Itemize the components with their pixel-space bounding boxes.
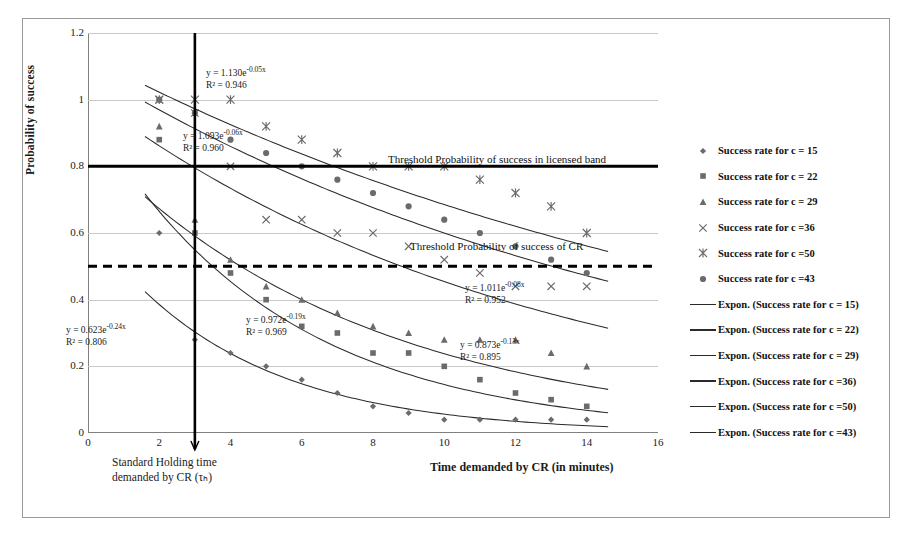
marker-star (298, 135, 306, 144)
marker-star (476, 175, 484, 184)
legend-item-label: Expon. (Success rate for c =43) (718, 427, 856, 438)
legend-symbol (696, 195, 710, 209)
x-tick-label: 8 (358, 436, 388, 448)
legend-item[interactable]: Expon. (Success rate for c =50) (688, 394, 898, 420)
marker-triangle (548, 350, 555, 357)
marker-diamond (584, 417, 590, 423)
marker-star (227, 95, 235, 104)
marker-cross (262, 216, 269, 223)
trend-line-2 (145, 197, 608, 390)
marker-triangle (370, 323, 377, 330)
equation-c43: y = 1.093e-0.06x R² = 0.960 (183, 127, 243, 154)
legend-item[interactable]: Success rate for c =43 (688, 266, 898, 292)
equation-c22-exponent: -0.19x (286, 312, 305, 321)
legend-line-icon (690, 329, 716, 330)
marker-square (228, 270, 234, 276)
legend-item[interactable]: Success rate for c = 29 (688, 189, 898, 215)
legend-item-label: Expon. (Success rate for c = 29) (718, 350, 859, 361)
marker-circle (370, 190, 376, 196)
series-1 (145, 137, 608, 413)
y-tick-label: 0.2 (44, 359, 84, 371)
holding-note-line1: Standard Holding time (112, 456, 217, 468)
legend-item[interactable]: Expon. (Success rate for c = 29) (688, 343, 898, 369)
marker-cross (699, 224, 706, 231)
legend-item-label: Success rate for c =36 (718, 222, 815, 233)
x-tick-label: 12 (501, 436, 531, 448)
legend-item[interactable]: Expon. (Success rate for c =43) (688, 420, 898, 446)
marker-star (512, 189, 520, 198)
equation-c15-r2: R² = 0.806 (66, 336, 126, 348)
marker-square (406, 350, 412, 356)
legend-item-label: Success rate for c =50 (718, 248, 815, 259)
legend-marker-line-icon (688, 355, 718, 356)
marker-diamond (370, 403, 376, 409)
marker-square (370, 350, 376, 356)
equation-c36-exponent: -0.08x (505, 280, 524, 289)
marker-cross (369, 229, 376, 236)
legend-marker-square-icon (688, 169, 718, 183)
marker-star (262, 122, 270, 131)
equation-c43-expr: y = 1.093e (183, 131, 223, 141)
y-tick-label: 1 (44, 93, 84, 105)
x-tick-label: 4 (216, 436, 246, 448)
trend-line-0 (145, 292, 608, 427)
marker-square (584, 404, 590, 410)
marker-cross (547, 283, 554, 290)
legend-item[interactable]: Success rate for c =50 (688, 240, 898, 266)
equation-c36-expr: y = 1.011e (465, 283, 505, 293)
legend-item-label: Expon. (Success rate for c = 22) (718, 324, 859, 335)
legend-line-icon (690, 355, 716, 356)
legend-line-icon (690, 380, 716, 381)
legend: Success rate for c = 15Success rate for … (688, 138, 898, 445)
legend-marker-star-icon (688, 246, 718, 260)
marker-star (333, 149, 341, 158)
marker-diamond (263, 363, 269, 369)
marker-square (548, 397, 554, 403)
figure-root: 1.210.80.60.40.20 Probability of success… (0, 0, 914, 545)
legend-item[interactable]: Expon. (Success rate for c =36) (688, 368, 898, 394)
marker-square (477, 377, 483, 383)
marker-circle (700, 276, 706, 282)
y-axis-ticks: 1.210.80.60.40.20 (40, 33, 84, 433)
legend-marker-diamond-icon (688, 144, 718, 158)
equation-c15-exponent: -0.24x (106, 322, 125, 331)
marker-star (583, 229, 591, 238)
holding-note-line2: demanded by CR (τₕ) (112, 471, 212, 483)
equation-c43-exponent: -0.06x (223, 128, 242, 137)
legend-item[interactable]: Success rate for c = 15 (688, 138, 898, 164)
equation-c50-r2: R² = 0.946 (206, 79, 266, 91)
marker-circle (263, 150, 269, 156)
equation-c15-expr: y = 0.623e (66, 325, 106, 335)
legend-symbol (696, 169, 710, 183)
y-tick-label: 1.2 (44, 26, 84, 38)
threshold-cr-label: Threshold Probability of success of CR (410, 240, 583, 252)
marker-diamond (700, 148, 706, 154)
legend-item[interactable]: Expon. (Success rate for c = 22) (688, 317, 898, 343)
series-5 (145, 97, 608, 282)
legend-item-label: Expon. (Success rate for c =50) (718, 401, 856, 412)
y-axis-title: Probability of success (24, 25, 36, 175)
x-tick-label: 16 (643, 436, 673, 448)
legend-line-icon (690, 406, 716, 407)
marker-circle (477, 230, 483, 236)
marker-cross (298, 216, 305, 223)
legend-item[interactable]: Success rate for c =36 (688, 215, 898, 241)
equation-c36: y = 1.011e-0.08x R² = 0.952 (465, 279, 524, 306)
series-4 (145, 85, 608, 251)
y-tick-label: 0.8 (44, 159, 84, 171)
equation-c50-expr: y = 1.130e (206, 68, 246, 78)
marker-circle (334, 177, 340, 183)
marker-circle (406, 203, 412, 209)
legend-item[interactable]: Success rate for c = 22 (688, 164, 898, 190)
legend-item-label: Success rate for c =43 (718, 273, 815, 284)
legend-item[interactable]: Expon. (Success rate for c = 15) (688, 292, 898, 318)
equation-c15: y = 0.623e-0.24x R² = 0.806 (66, 321, 126, 348)
marker-cross (476, 269, 483, 276)
plot-area: y = 1.130e-0.05x R² = 0.946 y = 1.093e-0… (88, 33, 658, 433)
legend-item-label: Success rate for c = 15 (718, 145, 817, 156)
equation-c29-r2: R² = 0.895 (460, 351, 520, 363)
marker-triangle (263, 283, 270, 290)
marker-cross (334, 229, 341, 236)
equation-c29-exponent: -0.13x (500, 337, 519, 346)
marker-square (263, 297, 269, 303)
